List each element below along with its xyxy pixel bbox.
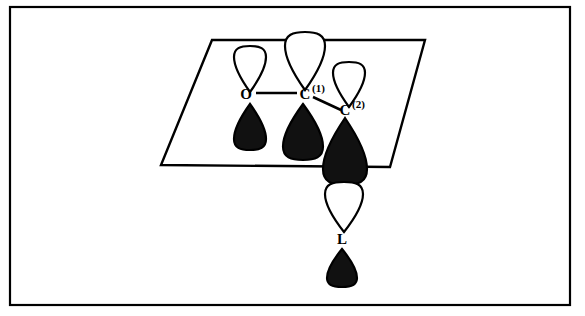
- oxygen-label-text: O: [240, 86, 252, 102]
- figure-root: O C (1) C (2) L: [0, 0, 585, 316]
- orbital-o-lower: [234, 104, 266, 150]
- carbon1-label-superscript: (1): [312, 82, 325, 95]
- orbital-diagram: O C (1) C (2) L: [0, 0, 585, 316]
- orbital-c2-lower: [323, 118, 367, 185]
- orbital-l-lower: [327, 249, 357, 287]
- ligand-label-text: L: [337, 231, 347, 247]
- orbital-c1-lower: [283, 104, 323, 160]
- bonds-group: [256, 93, 341, 110]
- bond-c1-c2: [313, 97, 341, 110]
- carbon2-label-text: C: [340, 102, 351, 118]
- carbon1-label-text: C: [300, 86, 311, 102]
- orbital-lobes-group: [234, 32, 367, 287]
- carbon2-label-superscript: (2): [352, 98, 365, 111]
- label-carbon2: C (2): [340, 98, 366, 118]
- orbital-l-upper: [325, 182, 363, 232]
- label-oxygen: O: [240, 86, 252, 102]
- label-ligand: L: [337, 231, 347, 247]
